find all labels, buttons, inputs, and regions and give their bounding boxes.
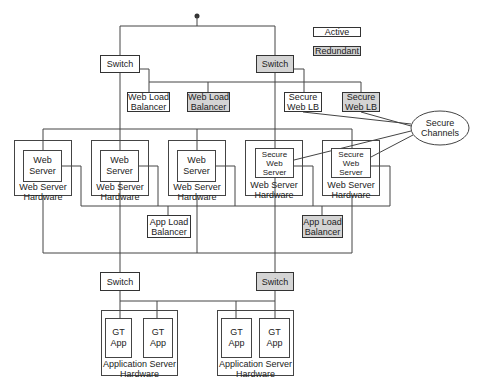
app-load-balancer-redundant: App Load Balancer	[302, 215, 343, 238]
gt-app-4: GT App	[259, 318, 290, 358]
gt-app-2: GT App	[143, 318, 173, 358]
network-diagram: Active Redundant Switch Switch Web Load …	[0, 0, 483, 387]
top-switch-active: Switch	[100, 55, 140, 73]
top-switch-redundant: Switch	[256, 55, 294, 73]
web-server-hardware-label-1: Web Server Hardware	[14, 182, 72, 202]
web-load-balancer-redundant: Web Load Balancer	[187, 92, 230, 112]
secure-web-server-2: Secure Web Server	[331, 148, 371, 178]
app-load-balancer-active: App Load Balancer	[147, 215, 191, 238]
web-server-hardware-label-2: Web Server Hardware	[91, 182, 149, 202]
web-server-hardware-label-4: Web Server Hardware	[245, 180, 303, 200]
web-server-hardware-label-3: Web Server Hardware	[168, 182, 226, 202]
bottom-switch-redundant: Switch	[256, 272, 294, 291]
secure-channels-label: Secure Channels	[411, 118, 469, 138]
secure-web-lb-active: Secure Web LB	[284, 92, 322, 112]
secure-web-lb-redundant: Secure Web LB	[342, 92, 380, 112]
gt-app-1: GT App	[105, 318, 132, 358]
web-server-3: Web Server	[177, 150, 216, 182]
gt-app-3: GT App	[221, 318, 252, 358]
legend-redundant: Redundant	[313, 46, 361, 56]
legend-active: Active	[313, 27, 361, 37]
web-server-hardware-label-5: Web Server Hardware	[322, 180, 380, 200]
web-server-1: Web Server	[23, 150, 62, 182]
web-load-balancer-active: Web Load Balancer	[127, 92, 170, 112]
web-server-2: Web Server	[100, 150, 139, 182]
secure-web-server-1: Secure Web Server	[255, 148, 294, 178]
app-server-hardware-label-2: Application Server Hardware	[217, 359, 294, 379]
bottom-switch-active: Switch	[100, 272, 140, 291]
app-server-hardware-label-1: Application Server Hardware	[101, 359, 178, 379]
